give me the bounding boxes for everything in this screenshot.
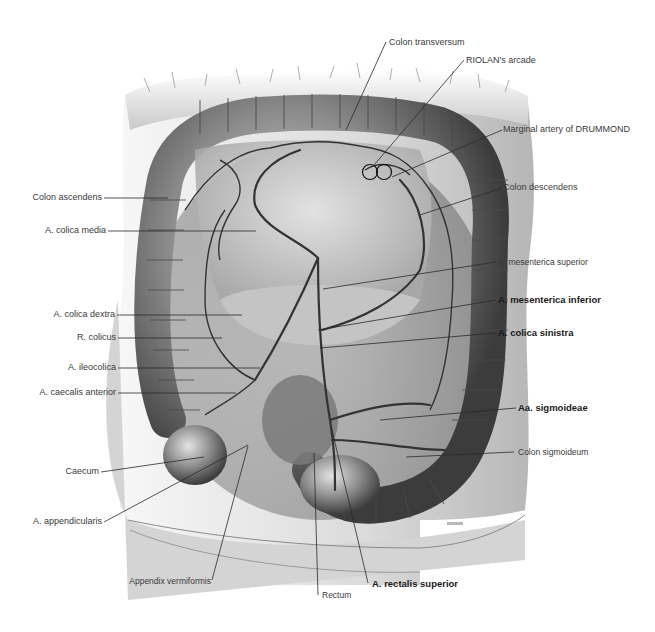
label-marginal-artery-drummond: Marginal artery of DRUMMOND (503, 124, 630, 135)
label-colon-ascendens: Colon ascendens (32, 192, 102, 203)
label-colon-descendens: Colon descendens (503, 182, 578, 193)
label-colon-sigmoideum: Colon sigmoideum (518, 447, 588, 458)
label-a-colica-sinistra: A. colica sinistra (498, 327, 574, 338)
label-a-caecalis-anterior: A. caecalis anterior (39, 387, 116, 398)
label-a-colica-media: A. colica media (45, 225, 106, 236)
label-colon-transversum: Colon transversum (389, 37, 465, 48)
label-a-colica-dextra: A. colica dextra (53, 309, 115, 320)
label-rectum: Rectum (322, 590, 351, 601)
label-r-colicus: R. colicus (77, 332, 116, 343)
label-a-rectalis-superior: A. rectalis superior (372, 578, 458, 589)
label-appendix-vermiformis: Appendix vermiformis (129, 576, 211, 587)
label-riolans-arcade: RIOLAN's arcade (466, 55, 536, 66)
label-aa-sigmoideae: Aa. sigmoideae (518, 402, 588, 413)
anatomical-figure: Colon ascendens A. colica media A. colic… (0, 0, 655, 632)
label-a-ileocolica: A. ileocolica (68, 362, 116, 373)
label-a-mesenterica-superior: A. mesenterica superior (498, 257, 588, 268)
label-a-appendicularis: A. appendicularis (33, 516, 102, 527)
label-a-mesenterica-inferior: A. mesenterica inferior (498, 294, 601, 305)
label-caecum: Caecum (65, 466, 99, 477)
